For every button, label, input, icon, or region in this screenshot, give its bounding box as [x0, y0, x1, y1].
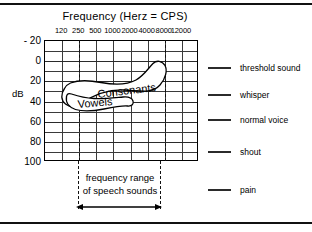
x-tick-label: 500	[89, 26, 101, 35]
x-tick-label: 4000	[139, 26, 155, 35]
grid-hline	[45, 152, 197, 153]
grid-hline	[45, 132, 197, 133]
y-tick-label: 0	[35, 55, 41, 66]
audiogram-figure: Frequency (Herz = CPS) 12025050010002000…	[0, 0, 312, 232]
grid-hline	[45, 51, 197, 52]
x-tick-label: 2000	[121, 26, 137, 35]
y-tick-label: 40	[30, 95, 41, 106]
y-tick-label: 80	[30, 135, 41, 146]
y-tick-label: 20	[30, 75, 41, 86]
legend-rule-icon	[208, 151, 231, 153]
legend-rule-icon	[208, 94, 231, 96]
chart-title: Frequency (Herz = CPS)	[0, 10, 250, 22]
speech-range-arrow	[76, 199, 162, 211]
grid-hline	[45, 112, 197, 113]
x-tick-label: 8000	[156, 26, 172, 35]
double-arrow-icon	[76, 201, 162, 213]
legend-label: pain	[240, 184, 256, 196]
grid-hline	[45, 81, 197, 82]
x-tick-label: 120	[55, 26, 67, 35]
x-tick-label: 1000	[104, 26, 120, 35]
grid-hline	[45, 142, 197, 143]
speech-range-dashed-line	[79, 40, 80, 161]
y-axis-tick-labels: - 20020406080100	[0, 40, 41, 161]
legend-label: whisper	[240, 89, 269, 101]
top-border-rule	[0, 3, 312, 5]
speech-range-note-line2: of speech sounds	[72, 185, 168, 198]
grid-hline	[45, 91, 197, 92]
grid-hline	[45, 122, 197, 123]
y-axis-label: dB	[12, 88, 24, 99]
x-tick-label: 12000	[171, 26, 191, 35]
grid-hline	[45, 71, 197, 72]
grid-hline	[45, 61, 197, 62]
y-tick-label: 60	[30, 115, 41, 126]
y-tick-label: 100	[24, 156, 41, 167]
x-axis-tick-labels: 120250500100020004000800012000	[44, 26, 199, 37]
speech-range-note-line1: frequency range	[72, 172, 168, 185]
legend-rule-icon	[208, 67, 231, 69]
legend-label: shout	[240, 146, 261, 158]
speech-range-dashed-line	[165, 40, 166, 161]
audiogram-grid	[44, 40, 198, 161]
legend-label: threshold sound	[240, 62, 301, 74]
grid-hline	[45, 102, 197, 103]
y-tick-label: - 20	[24, 35, 41, 46]
x-tick-label: 250	[72, 26, 84, 35]
legend-label: normal voice	[240, 114, 288, 126]
legend-rule-icon	[208, 119, 231, 121]
speech-range-note: frequency range of speech sounds	[72, 172, 168, 197]
bottom-border-rule	[0, 222, 312, 224]
legend-rule-icon	[208, 189, 231, 191]
